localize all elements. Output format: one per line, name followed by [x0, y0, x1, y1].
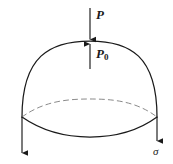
- label-p0-subscript: 0: [104, 52, 109, 62]
- label-p0-base: P: [96, 46, 104, 61]
- diagram-canvas: [0, 0, 173, 164]
- label-edge-stress-sigma: σ: [153, 146, 158, 157]
- base-front-edge: [22, 117, 157, 137]
- base-back-edge-dashed: [22, 99, 157, 117]
- label-internal-pressure-p0: P0: [96, 47, 108, 62]
- shell-load-diagram: P P0 σ: [0, 0, 173, 164]
- label-applied-load-p: P: [96, 8, 104, 21]
